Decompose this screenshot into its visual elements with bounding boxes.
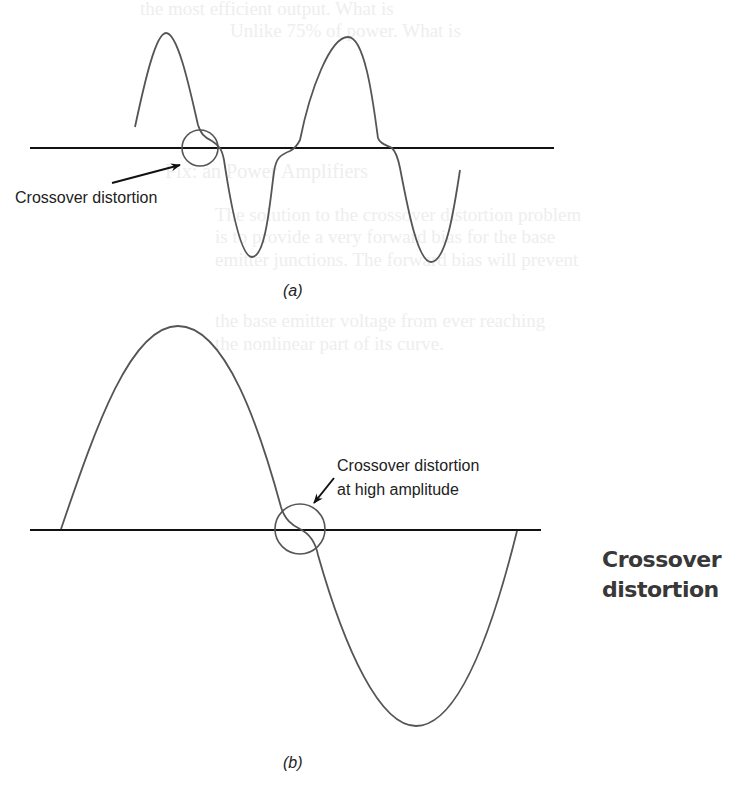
annotation-label-b-line1: Crossover distortion [337, 457, 479, 475]
distorted-waveform-b [61, 326, 517, 726]
annotation-label-b-line2: at high amplitude [337, 481, 459, 499]
annotation-arrow-a [112, 165, 180, 183]
panel-a [30, 33, 554, 262]
annotation-label-a: Crossover distortion [15, 189, 157, 207]
annotation-arrow-b [314, 478, 334, 503]
caption-a: (a) [283, 282, 303, 300]
caption-b: (b) [283, 754, 303, 772]
panel-b [30, 326, 541, 726]
side-title-line1: Crossover [602, 545, 721, 575]
side-title-line2: distortion [602, 575, 721, 605]
crossover-distortion-figure: the most efficient output. What is Unlik… [0, 0, 734, 791]
waveform-diagram [0, 0, 734, 791]
side-title: Crossover distortion [602, 545, 721, 605]
